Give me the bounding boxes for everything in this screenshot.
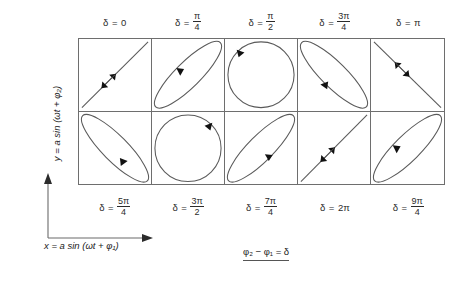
arrow-clockwise (205, 122, 213, 130)
y-axis-label: y = a sin (ωt + φ₂) (51, 64, 62, 184)
arrow-counterclockwise (237, 50, 245, 58)
lissajous-cell-delta-0 (79, 39, 152, 112)
lissajous-circle (225, 39, 297, 111)
bottom-label-4: δ = 9π 4 (372, 196, 445, 218)
lissajous-ellipse-diagonal-down-narrow (298, 39, 370, 111)
lissajous-line-diagonal-down (371, 39, 444, 111)
equals-symbol: = (181, 202, 187, 213)
fraction-denominator: 4 (195, 22, 200, 32)
lissajous-ellipse-diagonal-up-narrow (152, 39, 224, 111)
fraction-denominator: 4 (341, 22, 346, 32)
arrow-clockwise (265, 154, 273, 161)
equals-symbol: = (257, 17, 263, 28)
lissajous-cell-delta-pi-over-4 (152, 39, 225, 112)
delta-symbol: δ (396, 17, 401, 28)
delta-symbol: δ (175, 17, 180, 28)
equals-symbol: = (329, 202, 335, 213)
delta-value-fraction: 7π 4 (264, 197, 277, 217)
equals-symbol: = (255, 202, 261, 213)
caption-text: φ₂ − φ₁ = δ (243, 246, 289, 257)
axis-indicator (20, 168, 180, 250)
equals-symbol: = (112, 17, 118, 28)
delta-value-fraction: 3π 2 (190, 197, 203, 217)
delta-symbol: δ (248, 17, 253, 28)
fraction-numerator: 3π (337, 12, 350, 23)
lissajous-cell-delta-pi (371, 39, 444, 112)
delta-symbol: δ (393, 202, 398, 213)
lissajous-cell-delta-7pi-over-4 (225, 112, 298, 185)
delta-value-fraction: π 4 (193, 12, 201, 32)
delta-value-fraction: 3π 4 (337, 12, 350, 32)
figure-caption: φ₂ − φ₁ = δ (243, 246, 289, 261)
x-axis-label: x = a sin (ωt + φ₁) (44, 240, 119, 251)
double-arrow-oscillating (101, 74, 116, 88)
delta-value: 0 (121, 17, 126, 28)
lissajous-cell-delta-2pi (298, 112, 371, 185)
equals-symbol: = (184, 17, 190, 28)
lissajous-figure-grid (78, 38, 445, 185)
fraction-denominator: 4 (268, 207, 273, 217)
top-label-4: δ = π (372, 12, 445, 32)
arrow-counterclockwise (176, 68, 184, 76)
bottom-label-3: δ = 2π (298, 196, 371, 218)
lissajous-cell-delta-3pi-over-4 (298, 39, 371, 112)
lissajous-line-diagonal-up (298, 112, 370, 185)
double-arrow-oscillating (320, 147, 335, 162)
delta-symbol: δ (320, 202, 325, 213)
fraction-numerator: π (193, 12, 201, 23)
equals-symbol: = (402, 202, 408, 213)
delta-value: π (414, 17, 421, 28)
fraction-numerator: 9π (411, 197, 424, 208)
x-axis-arrowhead (142, 234, 153, 242)
delta-value-fraction: 9π 4 (411, 197, 424, 217)
lissajous-line-diagonal-up (79, 39, 151, 111)
x-axis-label-text: x = a sin (ωt + φ₁) (44, 240, 119, 251)
lissajous-ellipse-diagonal-up-narrow (371, 112, 444, 185)
fraction-numerator: 3π (190, 197, 203, 208)
top-label-3: δ = 3π 4 (298, 12, 371, 32)
equals-symbol: = (328, 17, 334, 28)
delta-symbol: δ (246, 202, 251, 213)
lissajous-ellipse-diagonal-up-narrow (225, 112, 297, 185)
fraction-denominator: 2 (195, 207, 200, 217)
fraction-denominator: 4 (415, 207, 420, 217)
arrow-clockwise (120, 158, 128, 166)
arrow-counterclockwise (393, 145, 401, 153)
fraction-numerator: π (266, 12, 274, 23)
axis-arrows (20, 168, 180, 250)
delta-symbol: δ (103, 17, 108, 28)
double-arrow-oscillating (395, 62, 410, 76)
lissajous-cell-delta-pi-over-2 (225, 39, 298, 112)
fraction-numerator: 7π (264, 197, 277, 208)
delta-value-fraction: π 2 (266, 12, 274, 32)
equals-symbol: = (405, 17, 411, 28)
top-label-1: δ = π 4 (151, 12, 224, 32)
top-label-0: δ = 0 (78, 12, 151, 32)
y-axis-label-text: y = a sin (ωt + φ₂) (51, 86, 62, 161)
top-label-2: δ = π 2 (225, 12, 298, 32)
fraction-denominator: 2 (268, 22, 273, 32)
delta-symbol: δ (319, 17, 324, 28)
lissajous-cell-delta-9pi-over-4 (371, 112, 444, 185)
bottom-label-2: δ = 7π 4 (225, 196, 298, 218)
delta-value: 2π (338, 202, 350, 213)
